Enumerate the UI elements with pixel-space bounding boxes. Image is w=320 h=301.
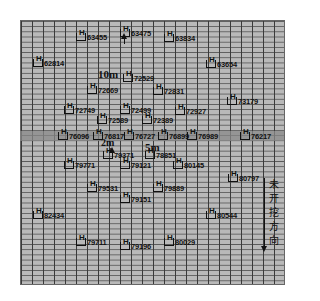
point-marker-icon [64,106,74,114]
survey-point: 76899 [158,131,189,141]
point-id: 80544 [217,211,237,220]
survey-point: 63834 [164,33,195,43]
direction-char: 向 [268,234,280,248]
point-id: 72927 [186,107,206,116]
point-marker-icon [153,184,163,192]
point-marker-icon [158,132,168,140]
point-marker-icon [175,107,185,115]
survey-point: 79371 [103,150,134,160]
survey-point: 72831 [153,86,184,96]
point-id: 73179 [238,97,258,106]
survey-point: 76989 [187,131,218,141]
arrow-up-icon [109,147,115,153]
point-id: 82434 [44,211,64,220]
survey-point: 63455 [76,32,107,42]
direction-char: 开 [268,192,280,206]
survey-point: 72927 [175,106,206,116]
point-marker-icon [64,161,74,169]
point-marker-icon [240,132,250,140]
point-marker-icon [120,242,130,250]
survey-point: 63654 [206,59,237,69]
point-marker-icon [33,211,43,219]
point-id: 80029 [175,238,195,247]
point-marker-icon [120,161,130,169]
point-id: 72529 [134,74,154,83]
arrow-down-icon [261,246,267,252]
point-marker-icon [123,74,133,82]
survey-point: 80145 [173,160,204,170]
point-id: 79889 [164,184,184,193]
point-id: 72831 [164,87,184,96]
direction-char: 挖 [268,206,280,220]
point-id: 80145 [184,161,204,170]
point-id: 63654 [217,60,237,69]
survey-point: 79196 [120,241,151,251]
point-marker-icon [206,60,216,68]
survey-point: 82434 [33,210,64,220]
survey-point: 72669 [87,85,118,95]
point-id: 79121 [131,161,151,170]
survey-point: 79121 [120,160,151,170]
point-id: 63834 [175,34,195,43]
point-id: 72669 [98,86,118,95]
survey-point: 72589 [97,115,128,125]
survey-point: 76217 [240,131,271,141]
survey-point: 79711 [76,237,106,247]
survey-point: 72529 [123,73,154,83]
survey-point: 79889 [153,183,184,193]
direction-char: 未 [268,178,280,192]
point-id: 79151 [131,195,151,204]
scale-label: 10m [98,68,118,80]
point-id: 76899 [169,132,189,141]
survey-point: 73179 [227,96,258,106]
survey-point: 80544 [206,210,237,220]
point-marker-icon [227,97,237,105]
survey-point: 72749 [64,105,95,115]
point-marker-icon [164,238,174,246]
point-marker-icon [228,174,238,182]
point-marker-icon [120,106,130,114]
point-marker-icon [187,132,197,140]
point-id: 76096 [69,132,89,141]
point-marker-icon [142,116,152,124]
point-marker-icon [164,34,174,42]
point-marker-icon [87,184,97,192]
point-marker-icon [87,86,97,94]
survey-point: 62814 [33,58,64,68]
survey-point: 80029 [164,237,195,247]
point-id: 62814 [44,59,64,68]
point-marker-icon [76,33,86,41]
point-id: 79531 [98,184,118,193]
point-id: 76727 [135,132,155,141]
point-marker-icon [120,195,130,203]
point-id: 63455 [87,33,107,42]
point-id: 72749 [75,106,95,115]
point-id: 72389 [153,116,173,125]
point-marker-icon [206,211,216,219]
point-marker-icon [76,238,86,246]
point-id: 76989 [198,132,218,141]
survey-point: 80797 [228,173,259,183]
point-marker-icon [173,161,183,169]
point-id: 79711 [87,238,106,247]
point-marker-icon [124,132,134,140]
survey-point: 76096 [58,131,89,141]
survey-point: 76727 [124,131,155,141]
point-id: 79771 [75,161,95,170]
arrow-up-icon [121,33,127,39]
point-marker-icon [153,87,163,95]
point-id: 79196 [131,242,151,251]
point-id: 80797 [239,174,259,183]
survey-point: 79771 [64,160,95,170]
point-marker-icon [33,59,43,67]
survey-point: 79531 [87,183,118,193]
arrow-line [264,178,265,249]
point-id: 76217 [251,132,271,141]
point-id: 63475 [131,29,151,38]
point-marker-icon [97,116,107,124]
survey-point: 72389 [142,115,173,125]
point-id: 72589 [108,116,128,125]
survey-point: 79151 [120,194,151,204]
direction-char: 方 [268,220,280,234]
direction-label: 未开挖方向 [268,178,280,248]
